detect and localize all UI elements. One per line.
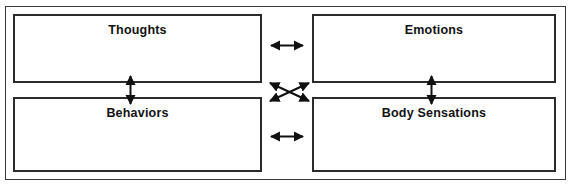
- node-box-behaviors[interactable]: Behaviors: [13, 97, 262, 172]
- node-label-body-sensations: Body Sensations: [314, 106, 554, 120]
- node-label-thoughts: Thoughts: [15, 23, 260, 37]
- node-box-body-sensations[interactable]: Body Sensations: [312, 97, 556, 172]
- cbt-interaction-diagram: Thoughts Emotions Behaviors Body Sensati…: [0, 0, 573, 186]
- node-label-emotions: Emotions: [314, 23, 554, 37]
- node-label-behaviors: Behaviors: [15, 106, 260, 120]
- node-box-emotions[interactable]: Emotions: [312, 14, 556, 83]
- node-box-thoughts[interactable]: Thoughts: [13, 14, 262, 83]
